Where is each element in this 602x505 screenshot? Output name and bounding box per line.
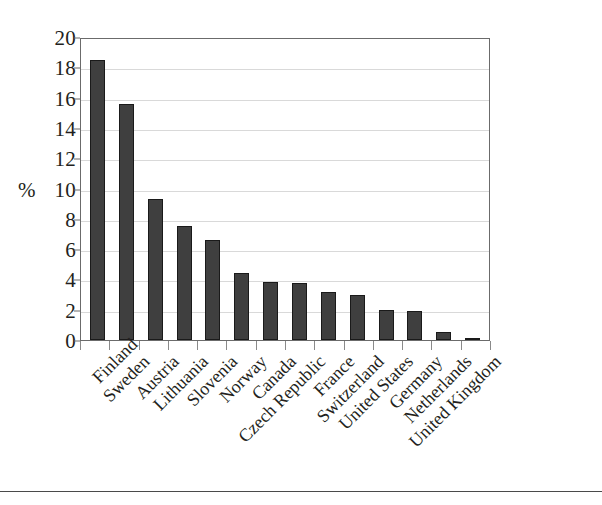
x-axis-tick-mark bbox=[344, 341, 345, 350]
y-axis-tick-mark bbox=[74, 250, 80, 251]
x-axis-tick-mark bbox=[168, 341, 169, 350]
bar-slot bbox=[372, 39, 401, 340]
y-axis-tick-mark bbox=[74, 159, 80, 160]
bar-slot bbox=[170, 39, 199, 340]
bar bbox=[465, 338, 480, 340]
y-axis-tick-mark bbox=[74, 219, 80, 220]
x-axis-tick-mark bbox=[373, 341, 374, 350]
bar bbox=[263, 282, 278, 340]
y-axis-tick-mark bbox=[74, 68, 80, 69]
x-axis-tick-mark bbox=[490, 341, 491, 350]
bar bbox=[234, 273, 249, 340]
y-axis-unit-label: % bbox=[18, 179, 36, 200]
bar bbox=[379, 310, 394, 340]
bar-slot bbox=[256, 39, 285, 340]
x-axis-tick-mark bbox=[256, 341, 257, 350]
x-axis-tick-mark bbox=[226, 341, 227, 350]
bar bbox=[436, 332, 451, 340]
x-axis-category-labels: FinlandSwedenAustriaLithuaniaSloveniaNor… bbox=[80, 352, 490, 482]
bar-slot bbox=[83, 39, 112, 340]
y-axis-tick-label: 16 bbox=[54, 88, 76, 109]
bar bbox=[350, 295, 365, 340]
y-axis-tick-label: 14 bbox=[54, 118, 76, 139]
bar-slot bbox=[112, 39, 141, 340]
bar-series bbox=[81, 39, 489, 340]
bar-slot bbox=[429, 39, 458, 340]
bar bbox=[292, 283, 307, 340]
bar-slot bbox=[227, 39, 256, 340]
bar-slot bbox=[458, 39, 487, 340]
bar bbox=[321, 292, 336, 340]
x-axis-tick-mark bbox=[314, 341, 315, 350]
x-axis-tick-marks bbox=[80, 341, 490, 351]
x-axis-tick-mark bbox=[197, 341, 198, 350]
bar bbox=[205, 240, 220, 340]
bar-slot bbox=[343, 39, 372, 340]
bar-chart-figure: % 20181614121086420 FinlandSwedenAustria… bbox=[0, 0, 602, 505]
y-axis-tick-mark bbox=[74, 38, 80, 39]
y-axis-tick-mark bbox=[74, 189, 80, 190]
bar bbox=[148, 199, 163, 340]
y-axis-tick-label: 10 bbox=[54, 179, 76, 200]
y-axis-tick-mark bbox=[74, 98, 80, 99]
bar bbox=[90, 60, 105, 340]
y-axis-tick-label: 18 bbox=[54, 58, 76, 79]
plot-area bbox=[80, 38, 490, 341]
bar-slot bbox=[285, 39, 314, 340]
bar bbox=[407, 311, 422, 340]
y-axis-tick-mark bbox=[74, 280, 80, 281]
bar bbox=[177, 226, 192, 340]
bar-slot bbox=[314, 39, 343, 340]
x-axis-tick-mark bbox=[109, 341, 110, 350]
bar-slot bbox=[141, 39, 170, 340]
y-axis-tick-labels: 20181614121086420 bbox=[44, 38, 76, 341]
y-axis-tick-mark bbox=[74, 128, 80, 129]
x-axis-tick-mark bbox=[431, 341, 432, 350]
y-axis-tick-label: 20 bbox=[54, 28, 76, 49]
x-axis-tick-mark bbox=[402, 341, 403, 350]
y-axis-tick-mark bbox=[74, 341, 80, 342]
bar-slot bbox=[400, 39, 429, 340]
x-axis-tick-mark bbox=[461, 341, 462, 350]
footer-divider bbox=[0, 491, 602, 492]
y-axis-tick-mark bbox=[74, 310, 80, 311]
x-axis-tick-mark bbox=[80, 341, 81, 350]
x-axis-tick-mark bbox=[285, 341, 286, 350]
y-axis-tick-label: 12 bbox=[54, 149, 76, 170]
bar bbox=[119, 104, 134, 340]
bar-slot bbox=[198, 39, 227, 340]
